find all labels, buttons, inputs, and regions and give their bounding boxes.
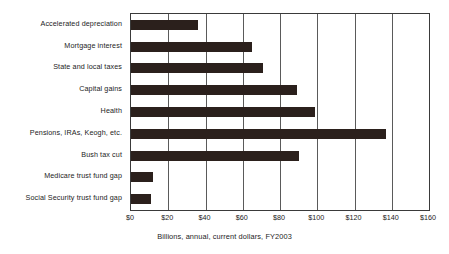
category-label: Medicare trust fund gap — [44, 171, 122, 181]
gridline — [392, 14, 393, 210]
bar — [131, 85, 297, 95]
plot-area — [130, 13, 430, 211]
category-label: Social Security trust fund gap — [26, 193, 123, 203]
x-tick-label: $160 — [420, 213, 436, 223]
axis-caption: Billions, annual, current dollars, FY200… — [0, 232, 449, 241]
x-tick-label: $140 — [383, 213, 399, 223]
category-label: Health — [101, 106, 122, 116]
category-label: Mortgage interest — [64, 41, 122, 51]
x-tick-label: $100 — [308, 213, 324, 223]
x-tick-label: $80 — [273, 213, 285, 223]
category-label: Bush tax cut — [81, 150, 122, 160]
category-label: Accelerated depreciation — [40, 19, 122, 29]
x-tick-label: $40 — [199, 213, 211, 223]
x-tick-label: $120 — [346, 213, 362, 223]
bar — [131, 63, 263, 73]
bar — [131, 107, 315, 117]
bar — [131, 194, 151, 204]
bar-chart: Accelerated depreciationMortgage interes… — [0, 0, 449, 254]
category-label: Capital gains — [79, 84, 122, 94]
bar — [131, 20, 198, 30]
x-tick-label: $0 — [126, 213, 134, 223]
bar — [131, 151, 299, 161]
bar — [131, 172, 153, 182]
category-label: State and local taxes — [53, 62, 122, 72]
category-label: Pensions, IRAs, Keogh, etc. — [30, 128, 122, 138]
gridline — [317, 14, 318, 210]
category-axis: Accelerated depreciationMortgage interes… — [0, 13, 126, 209]
bar — [131, 129, 386, 139]
bar — [131, 42, 252, 52]
x-tick-label: $20 — [161, 213, 173, 223]
value-axis: $0$20$40$60$80$100$120$140$160 — [130, 213, 428, 225]
x-tick-label: $60 — [236, 213, 248, 223]
gridline — [355, 14, 356, 210]
